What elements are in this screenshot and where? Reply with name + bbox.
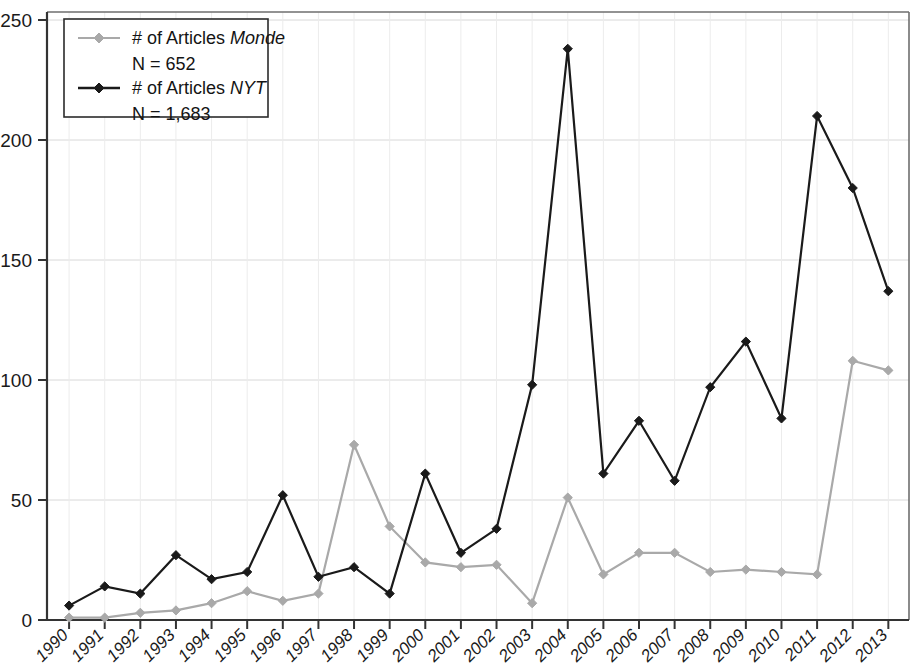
chart-canvas: 050100150200250 199019911992199319941995…	[0, 0, 921, 668]
y-tick-label: 150	[0, 250, 32, 271]
x-tick-label: 1994	[174, 625, 214, 665]
x-tick-label: 2005	[565, 625, 606, 666]
legend-count: N = 1,683	[132, 104, 211, 124]
y-tick-label: 0	[21, 610, 32, 631]
chart-legend: # of Articles MondeN = 652# of Articles …	[64, 19, 285, 124]
x-tick-label: 1993	[139, 625, 180, 666]
x-tick-label: 2000	[387, 625, 428, 666]
x-tick-label: 1997	[281, 625, 322, 666]
legend-label: # of Articles NYT	[132, 78, 268, 98]
x-tick-label: 1992	[103, 625, 144, 666]
x-tick-label: 1998	[317, 625, 358, 666]
x-axis-ticks: 1990199119921993199419951996199719981999…	[32, 620, 892, 666]
x-tick-label: 2003	[494, 625, 535, 666]
x-tick-label: 2004	[530, 625, 571, 666]
y-axis-ticks: 050100150200250	[0, 10, 47, 631]
y-tick-label: 250	[0, 10, 32, 31]
legend-count: N = 652	[132, 54, 196, 74]
y-tick-label: 50	[11, 490, 32, 511]
x-tick-label: 2008	[672, 625, 713, 666]
legend-label: # of Articles Monde	[132, 28, 285, 48]
y-tick-label: 100	[0, 370, 32, 391]
x-tick-label: 1999	[352, 625, 393, 666]
x-tick-label: 2012	[815, 625, 856, 666]
y-tick-label: 200	[0, 130, 32, 151]
x-tick-label: 2009	[708, 625, 749, 666]
line-chart-figure: 050100150200250 199019911992199319941995…	[0, 0, 921, 668]
x-tick-label: 2001	[423, 625, 464, 666]
x-tick-label: 2013	[850, 625, 891, 666]
x-tick-label: 2006	[601, 625, 642, 666]
x-tick-label: 2007	[637, 625, 678, 666]
x-tick-label: 1996	[245, 625, 286, 666]
x-tick-label: 1995	[210, 625, 251, 666]
x-tick-label: 1990	[32, 625, 73, 666]
x-tick-label: 2010	[743, 625, 784, 666]
x-tick-label: 1991	[67, 625, 107, 665]
x-tick-label: 2002	[458, 625, 499, 666]
x-tick-label: 2011	[780, 625, 820, 665]
